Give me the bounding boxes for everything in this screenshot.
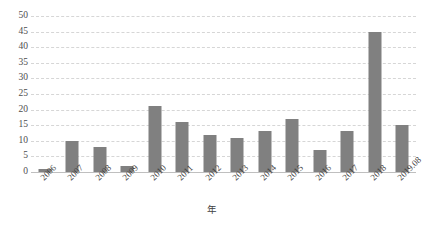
y-axis-labels: 05101520253035404550 — [0, 16, 28, 172]
y-tick-label: 0 — [2, 167, 28, 177]
y-tick-label: 15 — [2, 120, 28, 130]
y-tick-label: 40 — [2, 42, 28, 52]
bar-slot — [389, 16, 417, 172]
bar-slot — [279, 16, 307, 172]
bar-slot — [86, 16, 114, 172]
bar-slot — [224, 16, 252, 172]
y-tick-label: 20 — [2, 105, 28, 115]
bar-slot — [141, 16, 169, 172]
x-axis-title: 年 — [0, 206, 424, 216]
bar[interactable] — [368, 32, 381, 172]
y-tick-label: 10 — [2, 136, 28, 146]
bar[interactable] — [148, 106, 161, 172]
bar-slot — [114, 16, 142, 172]
y-tick-label: 50 — [2, 11, 28, 21]
y-tick-label: 30 — [2, 74, 28, 84]
y-tick-label: 5 — [2, 152, 28, 162]
bars-layer — [31, 16, 416, 172]
bar-slot — [196, 16, 224, 172]
bar-slot — [306, 16, 334, 172]
y-tick-label: 45 — [2, 27, 28, 37]
y-tick-label: 35 — [2, 58, 28, 68]
y-tick-label: 25 — [2, 89, 28, 99]
bar-slot — [59, 16, 87, 172]
bar-slot — [334, 16, 362, 172]
bar-slot — [31, 16, 59, 172]
bar-slot — [169, 16, 197, 172]
bar-chart: 05101520253035404550 2006200720082009201… — [0, 0, 424, 231]
bar-slot — [361, 16, 389, 172]
bar-slot — [251, 16, 279, 172]
